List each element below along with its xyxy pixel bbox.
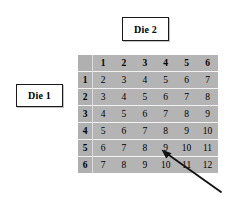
table-row: 1 2 3 4 5 6 7 bbox=[78, 72, 218, 89]
dice-sum-table: 1 2 3 4 5 6 1 2 3 4 5 6 7 2 3 4 5 6 bbox=[78, 55, 218, 173]
die1-label-box: Die 1 bbox=[16, 84, 63, 107]
table-header-row: 1 2 3 4 5 6 bbox=[78, 55, 218, 72]
cell-r5c3: 8 bbox=[134, 140, 155, 157]
cell-r6c4: 10 bbox=[155, 157, 176, 174]
cell-r2c3: 5 bbox=[134, 89, 155, 106]
cell-r3c3: 6 bbox=[134, 106, 155, 123]
column-header-2: 2 bbox=[113, 55, 134, 72]
cell-r3c4: 7 bbox=[155, 106, 176, 123]
column-header-1: 1 bbox=[93, 55, 114, 72]
column-header-5: 5 bbox=[176, 55, 197, 72]
die1-label-text: Die 1 bbox=[28, 90, 51, 101]
cell-r1c4: 5 bbox=[155, 72, 176, 89]
cell-r1c1: 2 bbox=[93, 72, 114, 89]
table-row: 4 5 6 7 8 9 10 bbox=[78, 123, 218, 140]
table-row: 6 7 8 9 10 11 12 bbox=[78, 157, 218, 174]
cell-r5c6: 11 bbox=[197, 140, 218, 157]
cell-r6c2: 8 bbox=[113, 157, 134, 174]
column-header-3: 3 bbox=[134, 55, 155, 72]
table-corner-cell bbox=[78, 55, 93, 72]
table-body: 1 2 3 4 5 6 1 2 3 4 5 6 7 2 3 4 5 6 bbox=[78, 55, 218, 173]
table-row: 2 3 4 5 6 7 8 bbox=[78, 89, 218, 106]
column-header-6: 6 bbox=[197, 55, 218, 72]
cell-r3c5: 8 bbox=[176, 106, 197, 123]
cell-r1c2: 3 bbox=[113, 72, 134, 89]
cell-r2c6: 8 bbox=[197, 89, 218, 106]
table-row: 5 6 7 8 9 10 11 bbox=[78, 140, 218, 157]
cell-r2c2: 4 bbox=[113, 89, 134, 106]
cell-r4c6: 10 bbox=[197, 123, 218, 140]
cell-r5c5: 10 bbox=[176, 140, 197, 157]
cell-r3c1: 4 bbox=[93, 106, 114, 123]
row-header-2: 2 bbox=[78, 89, 93, 106]
cell-r6c1: 7 bbox=[93, 157, 114, 174]
cell-r3c2: 5 bbox=[113, 106, 134, 123]
row-header-3: 3 bbox=[78, 106, 93, 123]
cell-r5c1: 6 bbox=[93, 140, 114, 157]
cell-r2c1: 3 bbox=[93, 89, 114, 106]
cell-r2c4: 6 bbox=[155, 89, 176, 106]
cell-r4c1: 5 bbox=[93, 123, 114, 140]
cell-r4c5: 9 bbox=[176, 123, 197, 140]
column-header-4: 4 bbox=[155, 55, 176, 72]
cell-r4c2: 6 bbox=[113, 123, 134, 140]
cell-r5c4: 9 bbox=[155, 140, 176, 157]
cell-r6c5: 11 bbox=[176, 157, 197, 174]
cell-r1c3: 4 bbox=[134, 72, 155, 89]
table-row: 3 4 5 6 7 8 9 bbox=[78, 106, 218, 123]
cell-r6c6: 12 bbox=[197, 157, 218, 174]
die2-label-text: Die 2 bbox=[134, 24, 157, 35]
cell-r1c6: 7 bbox=[197, 72, 218, 89]
cell-r5c2: 7 bbox=[113, 140, 134, 157]
row-header-4: 4 bbox=[78, 123, 93, 140]
cell-r2c5: 7 bbox=[176, 89, 197, 106]
cell-r4c4: 8 bbox=[155, 123, 176, 140]
row-header-6: 6 bbox=[78, 157, 93, 174]
cell-r1c5: 6 bbox=[176, 72, 197, 89]
cell-r6c3: 9 bbox=[134, 157, 155, 174]
row-header-1: 1 bbox=[78, 72, 93, 89]
cell-r3c6: 9 bbox=[197, 106, 218, 123]
row-header-5: 5 bbox=[78, 140, 93, 157]
figure-canvas: Die 2 Die 1 1 2 3 4 5 6 1 2 3 4 5 6 7 bbox=[0, 0, 234, 197]
die2-label-box: Die 2 bbox=[122, 17, 169, 41]
cell-r4c3: 7 bbox=[134, 123, 155, 140]
